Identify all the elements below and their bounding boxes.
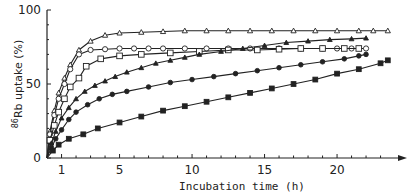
x-tick-label: 5 bbox=[116, 163, 124, 177]
marker-open-square bbox=[320, 46, 326, 52]
marker-filled-triangle bbox=[82, 89, 87, 93]
marker-filled-circle bbox=[255, 68, 260, 73]
uptake-chart: 05010015101520 86Rb uptake (%) Incubatio… bbox=[0, 0, 410, 196]
y-tick-label: 0 bbox=[33, 151, 41, 165]
marker-filled-circle bbox=[67, 117, 72, 122]
marker-filled-triangle bbox=[93, 83, 98, 87]
marker-open-circle bbox=[204, 46, 209, 51]
x-tick-label: 1 bbox=[58, 163, 66, 177]
marker-filled-triangle bbox=[103, 79, 108, 83]
marker-filled-square bbox=[95, 126, 100, 131]
marker-filled-square bbox=[248, 90, 253, 95]
marker-open-circle bbox=[56, 96, 61, 101]
marker-filled-square bbox=[182, 104, 187, 109]
series-line-filled-circle bbox=[47, 54, 366, 158]
marker-open-circle bbox=[146, 46, 151, 51]
marker-filled-triangle bbox=[113, 74, 118, 78]
marker-filled-circle bbox=[299, 62, 304, 67]
marker-filled-circle bbox=[212, 74, 217, 79]
marker-filled-triangle bbox=[168, 58, 173, 62]
marker-open-circle bbox=[68, 67, 73, 72]
marker-filled-triangle bbox=[153, 61, 158, 65]
marker-open-circle bbox=[363, 46, 368, 51]
marker-open-square bbox=[76, 75, 82, 81]
y-axis-title-text: Rb uptake (%) bbox=[12, 40, 25, 118]
y-axis-title: 86Rb uptake (%) bbox=[11, 40, 25, 129]
marker-filled-square bbox=[139, 114, 144, 119]
marker-open-square bbox=[276, 46, 282, 52]
marker-open-circle bbox=[62, 81, 67, 86]
marker-filled-circle bbox=[190, 77, 195, 82]
series-line-filled-triangle bbox=[47, 38, 366, 158]
marker-filled-circle bbox=[53, 136, 58, 141]
marker-filled-triangle bbox=[219, 49, 224, 53]
marker-open-circle bbox=[117, 46, 122, 51]
marker-filled-circle bbox=[364, 52, 369, 57]
marker-filled-circle bbox=[357, 54, 362, 59]
series-group bbox=[47, 28, 390, 158]
x-axis-arrow-icon bbox=[398, 155, 407, 161]
marker-filled-circle bbox=[146, 85, 151, 90]
x-axis-title: Incubation time (h) bbox=[179, 180, 305, 193]
marker-filled-triangle bbox=[240, 46, 245, 50]
marker-filled-triangle bbox=[53, 129, 58, 133]
marker-filled-circle bbox=[74, 110, 79, 115]
marker-filled-circle bbox=[110, 92, 115, 97]
x-tick-label: 20 bbox=[329, 163, 344, 177]
marker-open-circle bbox=[102, 47, 107, 52]
marker-filled-square bbox=[226, 95, 231, 100]
marker-open-square bbox=[67, 84, 73, 90]
marker-open-square bbox=[62, 96, 68, 102]
marker-filled-square bbox=[117, 120, 122, 125]
marker-filled-square bbox=[161, 108, 166, 113]
marker-filled-circle bbox=[168, 80, 173, 85]
marker-filled-square bbox=[50, 148, 55, 153]
marker-filled-square bbox=[291, 82, 296, 87]
marker-filled-circle bbox=[125, 89, 130, 94]
marker-filled-square bbox=[356, 67, 361, 72]
x-tick-label: 15 bbox=[257, 163, 272, 177]
marker-open-square bbox=[56, 109, 62, 115]
marker-filled-square bbox=[385, 58, 390, 63]
marker-filled-circle bbox=[85, 102, 90, 107]
marker-open-square bbox=[83, 63, 89, 69]
marker-filled-square bbox=[204, 99, 209, 104]
marker-open-circle bbox=[76, 52, 81, 57]
marker-filled-square bbox=[269, 86, 274, 91]
marker-filled-square bbox=[313, 77, 318, 82]
marker-open-square bbox=[342, 46, 348, 52]
marker-open-circle bbox=[160, 46, 165, 51]
marker-open-square bbox=[168, 50, 174, 56]
marker-filled-circle bbox=[97, 97, 102, 102]
marker-open-square bbox=[117, 53, 123, 59]
marker-open-square bbox=[98, 56, 104, 62]
marker-filled-circle bbox=[320, 60, 325, 65]
marker-filled-circle bbox=[59, 128, 64, 133]
marker-open-circle bbox=[88, 47, 93, 52]
marker-open-square bbox=[298, 46, 304, 52]
marker-filled-square bbox=[335, 71, 340, 76]
marker-filled-triangle bbox=[139, 65, 144, 69]
marker-filled-square bbox=[81, 132, 86, 137]
y-tick-label: 50 bbox=[26, 77, 41, 91]
marker-open-square bbox=[255, 47, 261, 53]
marker-open-circle bbox=[131, 46, 136, 51]
marker-filled-triangle bbox=[349, 36, 354, 40]
marker-filled-square bbox=[66, 136, 71, 141]
marker-filled-square bbox=[378, 61, 383, 66]
marker-filled-circle bbox=[277, 65, 282, 70]
marker-filled-triangle bbox=[284, 40, 289, 44]
marker-filled-triangle bbox=[182, 55, 187, 59]
y-axis-title-superscript: 86 bbox=[11, 118, 20, 128]
x-tick-label: 10 bbox=[184, 163, 199, 177]
series-line-open-square bbox=[47, 48, 359, 158]
marker-filled-triangle bbox=[327, 37, 332, 41]
marker-filled-triangle bbox=[124, 70, 129, 74]
marker-filled-triangle bbox=[364, 36, 369, 40]
marker-filled-square bbox=[56, 142, 61, 147]
axes: 05010015101520 bbox=[18, 3, 407, 177]
marker-filled-circle bbox=[342, 57, 347, 62]
marker-filled-triangle bbox=[306, 39, 311, 43]
marker-filled-circle bbox=[233, 71, 238, 76]
marker-filled-triangle bbox=[262, 43, 267, 47]
